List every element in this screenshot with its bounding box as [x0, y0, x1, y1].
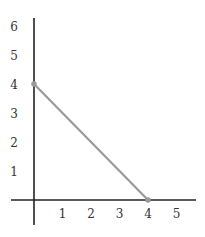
data-series — [31, 81, 151, 203]
chart: 12345 123456 — [0, 0, 205, 237]
x-tick-labels: 12345 — [59, 207, 181, 221]
data-point-marker — [31, 81, 37, 87]
x-tick-label: 3 — [116, 207, 124, 221]
x-tick-label: 2 — [87, 207, 95, 221]
x-tick-label: 4 — [144, 207, 152, 221]
y-tick-label: 1 — [10, 165, 18, 179]
y-tick-label: 2 — [10, 136, 18, 150]
axes — [11, 18, 196, 225]
x-tick-label: 5 — [173, 207, 181, 221]
y-tick-label: 5 — [10, 49, 18, 63]
y-tick-label: 3 — [10, 107, 18, 121]
series-line — [34, 84, 148, 200]
y-tick-label: 6 — [10, 20, 18, 34]
x-tick-label: 1 — [59, 207, 67, 221]
y-tick-labels: 123456 — [10, 20, 18, 179]
data-point-marker — [145, 197, 151, 203]
y-tick-label: 4 — [10, 78, 18, 92]
